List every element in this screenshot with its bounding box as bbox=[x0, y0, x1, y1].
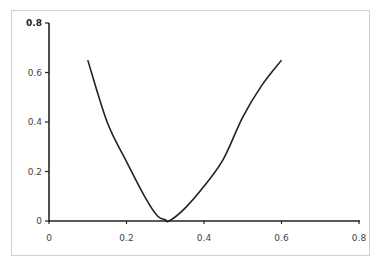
ticks: 00.20.40.60.800.20.40.60.8 bbox=[26, 18, 366, 243]
x-tick-label: 0.8 bbox=[352, 233, 367, 243]
y-tick-label: 0 bbox=[36, 216, 42, 226]
y-tick-label: 0.4 bbox=[28, 117, 43, 127]
x-tick-label: 0 bbox=[46, 233, 52, 243]
axes bbox=[49, 23, 360, 222]
y-tick-label: 0.8 bbox=[26, 18, 42, 28]
x-tick-label: 0.4 bbox=[197, 233, 212, 243]
y-tick-label: 0.2 bbox=[28, 167, 42, 177]
line-chart: 00.20.40.60.800.20.40.60.8 bbox=[0, 0, 384, 266]
data-line bbox=[88, 60, 282, 222]
x-tick-label: 0.2 bbox=[119, 233, 133, 243]
x-tick-label: 0.6 bbox=[274, 233, 289, 243]
y-tick-label: 0.6 bbox=[28, 68, 43, 78]
